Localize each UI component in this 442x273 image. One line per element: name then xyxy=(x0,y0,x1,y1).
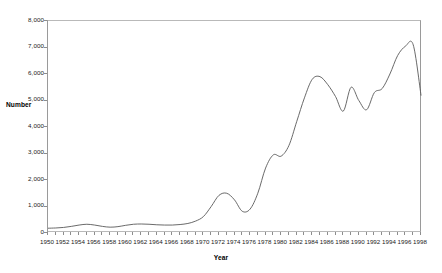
x-tick-mark xyxy=(397,232,398,235)
x-tick-mark xyxy=(335,232,336,235)
x-tick-mark xyxy=(109,232,110,235)
x-tick-label: 1998 xyxy=(413,238,427,245)
x-tick-mark xyxy=(272,232,273,235)
y-axis-ticks: 01,0002,0003,0004,0005,0006,0007,0008,00… xyxy=(0,0,44,273)
y-tick-label: 0 xyxy=(4,229,44,235)
series-line-number xyxy=(48,41,421,228)
x-tick-mark xyxy=(187,232,188,235)
x-tick-mark xyxy=(55,232,56,235)
x-tick-mark xyxy=(404,232,405,235)
series-canvas xyxy=(48,21,422,233)
x-tick-mark xyxy=(412,232,413,235)
x-tick-mark xyxy=(303,232,304,235)
x-tick-label: 1950 xyxy=(40,238,54,245)
x-tick-mark xyxy=(226,232,227,235)
x-tick-mark xyxy=(101,232,102,235)
x-tick-mark xyxy=(265,232,266,235)
x-tick-mark xyxy=(210,232,211,235)
x-tick-mark xyxy=(311,232,312,235)
x-tick-mark xyxy=(218,232,219,235)
x-tick-mark xyxy=(86,232,87,235)
x-tick-label: 1956 xyxy=(87,238,101,245)
x-tick-label: 1966 xyxy=(164,238,178,245)
x-tick-label: 1976 xyxy=(242,238,256,245)
x-tick-mark xyxy=(241,232,242,235)
x-tick-label: 1978 xyxy=(258,238,272,245)
x-tick-mark xyxy=(327,232,328,235)
plot-area xyxy=(47,20,421,232)
x-tick-label: 1972 xyxy=(211,238,225,245)
x-tick-label: 1974 xyxy=(227,238,241,245)
y-tick-label: 1,000 xyxy=(4,202,44,208)
x-tick-label: 1984 xyxy=(304,238,318,245)
x-tick-mark xyxy=(257,232,258,235)
y-tick-label: 6,000 xyxy=(4,70,44,76)
y-tick-label: 2,000 xyxy=(4,176,44,182)
y-axis-title: Number xyxy=(6,101,32,109)
x-tick-mark xyxy=(202,232,203,235)
x-tick-label: 1994 xyxy=(382,238,396,245)
line-chart: 01,0002,0003,0004,0005,0006,0007,0008,00… xyxy=(0,0,442,273)
x-tick-mark xyxy=(350,232,351,235)
x-tick-mark xyxy=(164,232,165,235)
x-tick-label: 1960 xyxy=(118,238,132,245)
x-tick-label: 1962 xyxy=(133,238,147,245)
x-tick-label: 1996 xyxy=(397,238,411,245)
x-tick-mark xyxy=(179,232,180,235)
x-tick-label: 1952 xyxy=(56,238,70,245)
x-tick-mark xyxy=(171,232,172,235)
x-tick-mark xyxy=(47,232,48,235)
x-tick-mark xyxy=(358,232,359,235)
x-tick-mark xyxy=(389,232,390,235)
x-tick-mark xyxy=(70,232,71,235)
x-tick-label: 1958 xyxy=(102,238,116,245)
x-tick-label: 1990 xyxy=(351,238,365,245)
x-tick-mark xyxy=(125,232,126,235)
x-tick-label: 1980 xyxy=(273,238,287,245)
x-tick-label: 1954 xyxy=(71,238,85,245)
y-tick-label: 4,000 xyxy=(4,123,44,129)
x-tick-mark xyxy=(319,232,320,235)
x-tick-mark xyxy=(381,232,382,235)
x-tick-mark xyxy=(63,232,64,235)
x-tick-mark xyxy=(156,232,157,235)
x-tick-mark xyxy=(234,232,235,235)
y-axis-line xyxy=(47,20,48,232)
x-tick-mark xyxy=(117,232,118,235)
x-tick-label: 1986 xyxy=(320,238,334,245)
x-tick-mark xyxy=(249,232,250,235)
x-tick-mark xyxy=(288,232,289,235)
x-tick-mark xyxy=(148,232,149,235)
y-tick-label: 7,000 xyxy=(4,43,44,49)
x-tick-mark xyxy=(140,232,141,235)
x-tick-mark xyxy=(195,232,196,235)
x-tick-label: 1970 xyxy=(195,238,209,245)
x-tick-mark xyxy=(94,232,95,235)
x-tick-label: 1992 xyxy=(366,238,380,245)
y-tick-label: 3,000 xyxy=(4,149,44,155)
x-tick-mark xyxy=(132,232,133,235)
x-tick-mark xyxy=(420,232,421,235)
x-tick-label: 1982 xyxy=(289,238,303,245)
x-tick-label: 1988 xyxy=(335,238,349,245)
x-tick-mark xyxy=(373,232,374,235)
y-tick-label: 8,000 xyxy=(4,17,44,23)
x-tick-label: 1964 xyxy=(149,238,163,245)
x-tick-label: 1968 xyxy=(180,238,194,245)
x-tick-mark xyxy=(296,232,297,235)
x-tick-mark xyxy=(280,232,281,235)
x-tick-mark xyxy=(366,232,367,235)
x-axis-title: Year xyxy=(0,254,442,262)
x-tick-mark xyxy=(78,232,79,235)
x-tick-mark xyxy=(342,232,343,235)
